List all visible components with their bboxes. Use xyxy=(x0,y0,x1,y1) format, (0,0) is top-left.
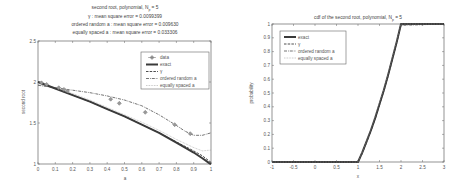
y-tick-label: 1 xyxy=(33,162,36,167)
y-tick-label: 2 xyxy=(33,80,36,85)
x-tick-label: 0 xyxy=(37,167,40,172)
x-tick-label: 2 xyxy=(400,165,403,170)
left-x-axis-label: a xyxy=(124,176,127,181)
y-tick-label: 0.8 xyxy=(264,49,271,54)
svg-text:equally spaced a: equally spaced a xyxy=(160,83,195,88)
svg-text:ordered random a: ordered random a xyxy=(298,49,335,54)
svg-text:equally spaced a: equally spaced a xyxy=(298,56,333,61)
right-x-axis-label: x xyxy=(357,174,360,179)
y-tick-label: 0 xyxy=(267,160,270,165)
left-legend: data exact γ ordered random a equally sp… xyxy=(141,52,209,89)
y-tick-label: 0.9 xyxy=(264,35,271,40)
left-chart-panel: second root, polynomial, Np = 5 γ : mean… xyxy=(0,0,232,184)
x-tick-label: 1 xyxy=(357,165,360,170)
x-tick-label: -0.5 xyxy=(290,165,298,170)
right-title: cdf of the second root, polynomial, Np =… xyxy=(314,15,402,22)
x-tick-label: 0.3 xyxy=(87,167,94,172)
right-chart-panel: cdf of the second root, polynomial, Np =… xyxy=(232,0,463,184)
x-tick-label: 0.2 xyxy=(69,167,76,172)
left-title-line4: equally spaced a : mean square error = 0… xyxy=(73,30,178,35)
x-tick-label: 0.7 xyxy=(156,167,163,172)
y-tick-label: 0.4 xyxy=(264,104,271,109)
x-tick-label: 1.5 xyxy=(376,165,383,170)
y-tick-label: 2.5 xyxy=(30,39,37,44)
left-title-line3: ordered random a : mean square error = 0… xyxy=(71,22,178,27)
y-tick-label: 1.5 xyxy=(30,121,37,126)
x-tick-label: 0 xyxy=(314,165,317,170)
y-tick-label: 0.6 xyxy=(264,77,271,82)
x-tick-label: 0.8 xyxy=(173,167,180,172)
second-root-chart: second root, polynomial, Np = 5 γ : mean… xyxy=(0,0,232,184)
x-tick-label: 0.9 xyxy=(191,167,198,172)
left-title-line1: second root, polynomial, Np = 5 xyxy=(92,5,159,12)
y-tick-label: 0.1 xyxy=(264,146,271,151)
y-tick-label: 0.2 xyxy=(264,132,271,137)
x-tick-label: 0.6 xyxy=(139,167,146,172)
y-tick-label: 0.7 xyxy=(264,63,271,68)
right-y-axis-label: probability xyxy=(249,82,254,104)
svg-text:data: data xyxy=(160,55,169,60)
x-tick-label: 1 xyxy=(210,167,213,172)
svg-text:exact: exact xyxy=(298,35,310,40)
x-tick-label: 0.5 xyxy=(121,167,128,172)
left-title-line2: γ : mean square error = 0.0099399 xyxy=(88,14,162,19)
svg-text:exact: exact xyxy=(160,62,172,67)
left-y-axis-label: second root xyxy=(21,89,26,114)
x-tick-label: 3 xyxy=(443,165,446,170)
y-tick-label: 0.5 xyxy=(264,91,271,96)
y-tick-label: 0.3 xyxy=(264,118,271,123)
right-legend: exact γ ordered random a equally spaced … xyxy=(280,31,346,64)
x-tick-label: 0.1 xyxy=(52,167,59,172)
y-tick-label: 1 xyxy=(267,22,270,27)
svg-text:ordered random a: ordered random a xyxy=(160,76,197,81)
x-tick-label: -1 xyxy=(270,165,275,170)
x-tick-label: 0.5 xyxy=(333,165,340,170)
x-tick-label: 0.4 xyxy=(104,167,111,172)
cdf-chart: cdf of the second root, polynomial, Np =… xyxy=(232,0,463,184)
x-tick-label: 2.5 xyxy=(419,165,426,170)
